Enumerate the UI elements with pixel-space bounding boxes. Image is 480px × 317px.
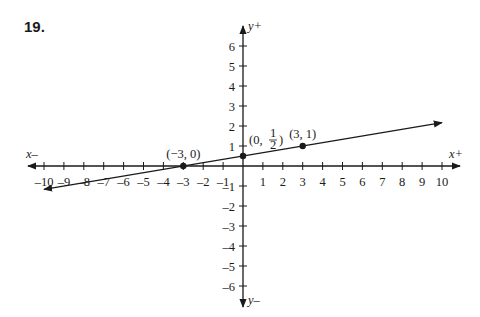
y-tick-label: 3: [229, 100, 235, 114]
x-tick-label: –2: [196, 175, 210, 189]
data-point: [240, 153, 246, 159]
y-tick-label: –4: [222, 240, 236, 254]
x-tick-label: –4: [156, 175, 170, 189]
x-tick-label: 8: [399, 175, 405, 189]
x-positive-label: x+: [448, 147, 463, 161]
x-tick-label: 5: [339, 175, 345, 189]
x-tick-label: 6: [359, 175, 365, 189]
data-point: [300, 143, 306, 149]
x-tick-label: 1: [260, 175, 266, 189]
x-tick-label: 2: [280, 175, 286, 189]
point-label: (0,: [249, 133, 263, 147]
point-label: (3, 1): [289, 127, 316, 141]
x-tick-label: 7: [379, 175, 385, 189]
y-tick-label: 5: [229, 60, 235, 74]
x-tick-label: 10: [436, 175, 449, 189]
x-tick-label: 3: [300, 175, 306, 189]
y-tick-label: –6: [222, 280, 236, 294]
y-tick-label: 1: [229, 140, 235, 154]
y-tick-label: –5: [222, 260, 236, 274]
coordinate-plane: –10–9–8–7–6–5–4–3–2–112345678910–6–5–4–3…: [0, 0, 480, 317]
fraction-denominator: 2: [270, 138, 276, 152]
x-negative-label: x–: [25, 147, 39, 161]
y-tick-label: 6: [229, 40, 235, 54]
x-tick-label: –5: [136, 175, 150, 189]
x-tick-label: 4: [319, 175, 326, 189]
y-positive-label: y+: [246, 19, 262, 33]
point-label: (−3, 0): [166, 147, 200, 161]
y-tick-label: 4: [229, 80, 236, 94]
point-label: ): [279, 133, 283, 147]
x-tick-label: –10: [34, 175, 54, 189]
x-tick-label: –3: [176, 175, 190, 189]
y-tick-label: 2: [229, 120, 235, 134]
x-tick-label: 9: [419, 175, 425, 189]
y-tick-label: –1: [222, 180, 236, 194]
data-point: [180, 163, 186, 169]
y-tick-label: –3: [222, 220, 236, 234]
y-negative-label: y–: [246, 293, 261, 307]
x-tick-label: –7: [96, 175, 110, 189]
y-tick-label: –2: [222, 200, 236, 214]
